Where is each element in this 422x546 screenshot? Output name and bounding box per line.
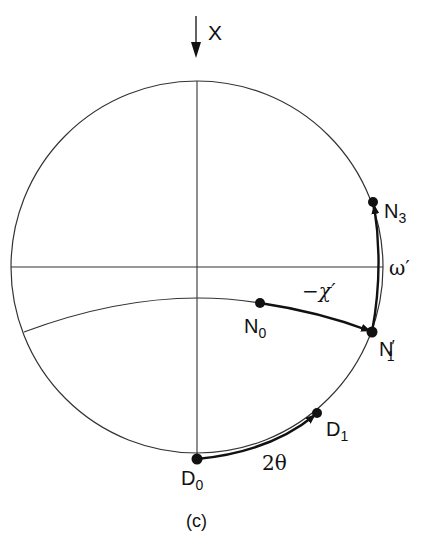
point-N1-prime [367,327,378,338]
beam-label: X [208,21,222,44]
chi-rotation-arrow [260,303,370,331]
label-N0: N0 [244,315,266,341]
label-two-theta: 2θ [262,451,287,475]
beam-arrow-icon [191,42,201,58]
point-D1 [312,408,322,418]
stereographic-projection-diagram: X N3 ω′ −χ′ N0 N′1 D1 2θ D0 (c) [0,0,422,546]
label-D0: D0 [181,467,203,493]
label-N3: N3 [384,200,406,226]
label-D1: D1 [326,418,348,444]
label-N1-prime: N′1 [379,337,395,364]
point-N3 [368,197,378,207]
figure-caption: (c) [186,511,207,531]
chi-circle-arc [24,298,260,332]
label-omega-prime: ω′ [389,256,410,280]
point-N0 [255,298,265,308]
label-chi-prime: −χ′ [302,279,336,303]
point-D0 [192,454,203,465]
